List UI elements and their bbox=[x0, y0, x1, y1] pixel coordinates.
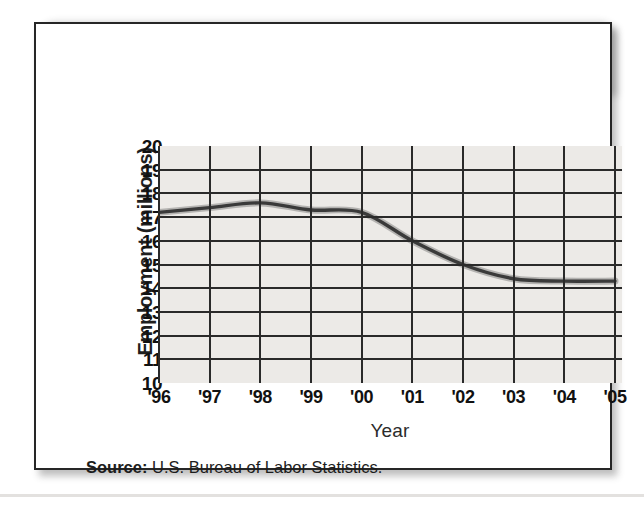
gridline-vertical bbox=[158, 146, 160, 383]
y-tick-label: 16 bbox=[120, 231, 162, 250]
x-tick-label: '97 bbox=[183, 388, 237, 406]
x-tick-label: '04 bbox=[537, 388, 591, 406]
gridline-vertical bbox=[209, 146, 211, 383]
x-axis-tick-labels: '96'97'98'99'00'01'02'03'04'05 bbox=[158, 388, 622, 414]
y-tick-label: 11 bbox=[120, 350, 162, 369]
gridline-vertical bbox=[614, 146, 616, 383]
gridline-vertical bbox=[563, 146, 565, 383]
gridline-vertical bbox=[513, 146, 515, 383]
figure-card: Employment (millions) 201918171615141312… bbox=[34, 22, 612, 470]
gridline-horizontal bbox=[158, 169, 622, 171]
plot-area bbox=[158, 146, 622, 383]
y-tick-label: 13 bbox=[120, 302, 162, 321]
gridline-vertical bbox=[361, 146, 363, 383]
gridline-horizontal bbox=[158, 216, 622, 218]
gridline-vertical bbox=[310, 146, 312, 383]
x-axis-title: Year bbox=[158, 420, 622, 442]
data-line-halo bbox=[159, 203, 615, 281]
gridline-horizontal bbox=[158, 311, 622, 313]
source-note: Source: U.S. Bureau of Labor Statistics. bbox=[86, 458, 382, 477]
gridline-horizontal bbox=[158, 358, 622, 360]
x-tick-label: '01 bbox=[385, 388, 439, 406]
x-tick-label: '00 bbox=[335, 388, 389, 406]
x-tick-label: '96 bbox=[132, 388, 186, 406]
y-tick-label: 18 bbox=[120, 184, 162, 203]
gridline-horizontal bbox=[158, 240, 622, 242]
y-tick-label: 17 bbox=[120, 208, 162, 227]
source-text: U.S. Bureau of Labor Statistics. bbox=[147, 458, 382, 476]
gridline-horizontal bbox=[158, 264, 622, 266]
bottom-rule bbox=[0, 494, 644, 497]
x-tick-label: '05 bbox=[588, 388, 642, 406]
x-tick-label: '98 bbox=[233, 388, 287, 406]
x-tick-label: '03 bbox=[487, 388, 541, 406]
gridline-horizontal bbox=[158, 192, 622, 194]
y-axis-tick-labels: 2019181716151413121110 bbox=[120, 146, 162, 383]
y-tick-label: 14 bbox=[120, 279, 162, 298]
gridline-vertical bbox=[462, 146, 464, 383]
source-label: Source: bbox=[86, 458, 147, 476]
x-tick-label: '99 bbox=[284, 388, 338, 406]
y-tick-label: 12 bbox=[120, 326, 162, 345]
y-tick-label: 20 bbox=[120, 137, 162, 156]
chart-body: Employment (millions) 201918171615141312… bbox=[72, 120, 644, 492]
gridline-horizontal bbox=[158, 335, 622, 337]
y-tick-label: 19 bbox=[120, 160, 162, 179]
gridline-vertical bbox=[259, 146, 261, 383]
gridline-horizontal bbox=[158, 287, 622, 289]
gridline-vertical bbox=[411, 146, 413, 383]
data-line-path bbox=[159, 203, 615, 281]
y-tick-label: 15 bbox=[120, 255, 162, 274]
x-tick-label: '02 bbox=[436, 388, 490, 406]
